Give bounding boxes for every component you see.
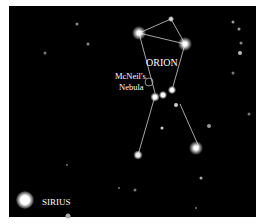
star <box>200 177 203 180</box>
constellation-label: ORION <box>146 58 178 68</box>
star-rigel <box>189 141 203 155</box>
star-meissa <box>168 16 174 22</box>
star-sirius <box>16 191 34 209</box>
star <box>118 187 120 189</box>
star <box>207 124 211 128</box>
sirius-label: SIRIUS <box>42 198 71 207</box>
star <box>195 207 197 209</box>
star <box>238 28 241 31</box>
star <box>66 164 68 166</box>
star <box>248 113 251 116</box>
star <box>66 214 71 219</box>
star-saiph <box>134 151 143 160</box>
nebula-label-line2: Nebula <box>119 83 144 92</box>
star <box>238 51 242 55</box>
star-belt-3 <box>168 86 176 94</box>
star <box>87 43 90 46</box>
star <box>76 23 79 26</box>
star <box>232 72 235 75</box>
star <box>240 42 243 45</box>
star-sword <box>174 103 178 107</box>
nebula-label-line1: McNeil's <box>115 72 146 81</box>
star-betelgeuse <box>132 26 146 40</box>
star-belt-2 <box>159 91 167 99</box>
star <box>232 21 235 24</box>
star <box>44 52 47 55</box>
star <box>134 189 137 192</box>
star-bellatrix <box>178 37 192 51</box>
night-sky-photo: ORION McNeil's Nebula SIRIUS <box>9 6 256 217</box>
star <box>161 127 164 130</box>
constellation-lines <box>9 6 256 217</box>
